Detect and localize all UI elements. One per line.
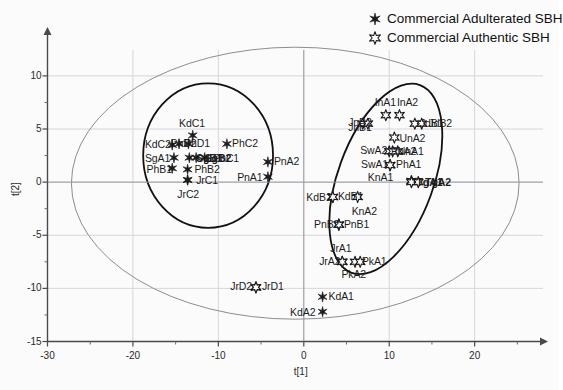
- data-point-label: SwA1: [361, 159, 388, 170]
- data-point-label: JrD1: [262, 281, 284, 292]
- x-tick-label: 0: [292, 350, 316, 361]
- grid-lines: [48, 50, 544, 342]
- data-point-label: SwA2: [360, 145, 387, 156]
- data-point-marker: [318, 292, 327, 302]
- legend-label: Commercial Authentic SBH: [387, 31, 550, 45]
- y-axis-title: t[2]: [10, 182, 21, 196]
- data-point-marker: [183, 175, 192, 185]
- open-star-icon: [368, 31, 382, 45]
- data-point-marker: [410, 118, 420, 129]
- data-point-label: UnA2: [399, 133, 425, 144]
- data-point-marker: [395, 110, 405, 121]
- data-point-label: JrC1: [196, 175, 218, 186]
- data-point-label: PhA1: [396, 159, 421, 170]
- data-point-marker: [185, 152, 194, 162]
- data-point-marker: [251, 282, 261, 293]
- data-point-label: JdB2: [429, 118, 453, 129]
- x-tick-label: 20: [463, 350, 487, 361]
- x-tick-label: -30: [36, 350, 60, 361]
- data-point-label: PhC1: [213, 153, 239, 164]
- data-point-label: InA1: [375, 97, 396, 108]
- data-point-label: KdB1: [338, 191, 363, 202]
- y-tick-label: -10: [16, 282, 42, 293]
- data-point-label: JrA1: [330, 243, 351, 254]
- filled-star-icon: [368, 12, 382, 26]
- ellipse-overlays: [71, 47, 519, 319]
- data-point-marker: [318, 307, 327, 317]
- hotelling-t2-ellipse: [71, 47, 519, 319]
- data-point-label: PhC2: [232, 138, 258, 149]
- data-point-label: PhA2: [391, 146, 416, 157]
- data-point-label: TgA2: [425, 177, 451, 188]
- data-point-label: KdA2: [290, 307, 315, 318]
- data-point-label: JrC2: [177, 189, 199, 200]
- data-point-label: SgA1: [145, 153, 170, 164]
- data-point-label: JnB1: [348, 122, 372, 133]
- data-point-marker: [169, 152, 178, 162]
- data-point-label: PnA1: [237, 172, 262, 183]
- data-point-marker: [263, 157, 272, 167]
- y-tick-label: -5: [16, 229, 42, 240]
- x-axis-title: t[1]: [294, 366, 308, 377]
- data-point-marker: [183, 164, 192, 174]
- x-tick-label: -20: [121, 350, 145, 361]
- x-tick-label: 10: [377, 350, 401, 361]
- data-point-label: KdC1: [179, 118, 205, 129]
- y-tick-label: -15: [16, 336, 42, 347]
- y-tick-label: 5: [16, 123, 42, 134]
- data-point-label: PnB2: [314, 219, 339, 230]
- legend-item: Commercial Adulterated SBH: [368, 12, 563, 26]
- data-point-label: JrA2: [319, 256, 340, 267]
- data-point-label: PnA2: [274, 156, 299, 167]
- data-point-label: KdB2: [306, 192, 331, 203]
- legend-item: Commercial Authentic SBH: [368, 31, 550, 45]
- data-point-label: KdA1: [329, 291, 354, 302]
- data-point-label: JrD2: [230, 281, 252, 292]
- data-point-label: KdC2: [145, 139, 171, 150]
- data-point-label: PnB1: [344, 219, 369, 230]
- legend-label: Commercial Adulterated SBH: [387, 12, 563, 26]
- data-point-label: PkA1: [362, 256, 387, 267]
- data-point-label: PhD1: [184, 138, 210, 149]
- data-point-label: PhB1: [147, 164, 172, 175]
- data-point-label: InA2: [397, 97, 418, 108]
- axis-lines: [43, 34, 544, 347]
- data-point-label: KnA2: [352, 206, 377, 217]
- data-point-marker: [222, 139, 231, 149]
- x-tick-label: -10: [206, 350, 230, 361]
- data-point-marker: [390, 132, 400, 143]
- data-point-label: PkA2: [341, 269, 366, 280]
- y-tick-label: 10: [16, 70, 42, 81]
- data-point-label: KnA1: [368, 172, 393, 183]
